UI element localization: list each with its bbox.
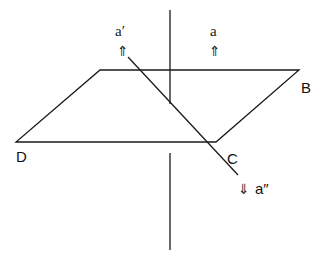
- label-a: a: [210, 23, 217, 39]
- up-arrow-icon: ⇑: [209, 43, 221, 59]
- label-vertex-b: B: [301, 79, 311, 96]
- up-arrow-icon: ⇑: [117, 43, 129, 59]
- plane-parallelogram: [16, 70, 299, 142]
- label-vertex-c: C: [227, 150, 238, 167]
- oblique-line: [128, 57, 238, 175]
- label-a-prime: a′: [115, 23, 125, 39]
- label-a-double-prime: a″: [255, 180, 269, 197]
- geometry-diagram: a′ ⇑ a ⇑ B C D ⇓ a″: [0, 0, 323, 262]
- down-arrow-icon: ⇓: [238, 181, 250, 197]
- label-vertex-d: D: [16, 148, 27, 165]
